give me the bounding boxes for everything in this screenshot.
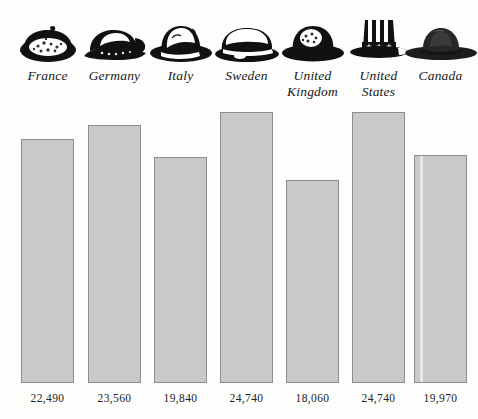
- category-label: France: [15, 68, 80, 84]
- bar: [286, 180, 339, 383]
- chart-column-germany: Germany23,560: [88, 0, 141, 419]
- category-label: United Kingdom: [280, 68, 345, 99]
- hat-illustration-canada: [414, 0, 467, 66]
- hat-illustration-united-kingdom: [286, 0, 339, 66]
- bar: [414, 155, 467, 383]
- bar-value-label: 19,970: [406, 392, 475, 404]
- bar-highlight-streak: [420, 156, 423, 382]
- bar: [220, 112, 273, 383]
- hat-illustration-italy: [154, 0, 207, 66]
- beret-hat-icon: [17, 20, 79, 64]
- bar-value-label: 22,490: [13, 392, 82, 404]
- hat-illustration-united-states: [352, 0, 405, 66]
- uncle-sam-top-hat-icon: [348, 14, 410, 64]
- bar: [154, 157, 207, 383]
- bar-value-label: 18,060: [278, 392, 347, 404]
- chart-column-united-states: United States24,740: [352, 0, 405, 419]
- category-label: Germany: [82, 68, 147, 84]
- brimmed-cap-hat-icon: [212, 18, 282, 64]
- bar-value-label: 19,840: [146, 392, 215, 404]
- mountie-hat-icon: [404, 20, 478, 64]
- hat-illustration-germany: [88, 0, 141, 66]
- chart-column-canada: Canada19,970: [414, 0, 467, 419]
- bar-value-label: 24,740: [344, 392, 413, 404]
- category-label: Sweden: [214, 68, 279, 84]
- bar: [88, 125, 141, 383]
- bar: [352, 112, 405, 383]
- category-label: Canada: [408, 68, 473, 84]
- fedora-hat-icon: [148, 18, 214, 64]
- bar-value-label: 23,560: [80, 392, 149, 404]
- hat-illustration-sweden: [220, 0, 273, 66]
- chart-column-united-kingdom: United Kingdom18,060: [286, 0, 339, 419]
- chart-column-sweden: Sweden24,740: [220, 0, 273, 419]
- hat-illustration-france: [21, 0, 74, 66]
- bowler-hat-icon: [280, 18, 346, 64]
- chart-column-italy: Italy19,840: [154, 0, 207, 419]
- category-label: Italy: [148, 68, 213, 84]
- bar: [21, 139, 74, 383]
- category-label: United States: [346, 68, 411, 99]
- chart-column-france: France22,490: [21, 0, 74, 419]
- bar-value-label: 24,740: [212, 392, 281, 404]
- flat-cap-hat-icon: [80, 20, 150, 64]
